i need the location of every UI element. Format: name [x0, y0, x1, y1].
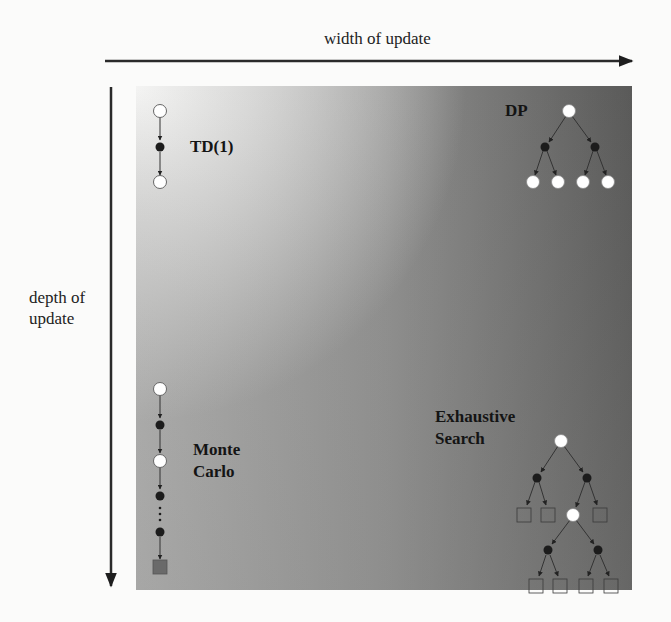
- td1-label: TD(1): [190, 136, 233, 158]
- monte-carlo-label-line2: Carlo: [193, 461, 240, 483]
- monte-carlo-backup-diagram: [153, 383, 167, 575]
- terminal-square: [541, 508, 555, 522]
- td1-backup-diagram: [154, 105, 167, 189]
- state-node: [154, 105, 167, 118]
- terminal-square: [529, 579, 543, 593]
- ellipsis-dot: [159, 519, 162, 522]
- terminal-square: [593, 508, 607, 522]
- state-node: [563, 105, 576, 118]
- exhaustive-search-label: Exhaustive Search: [435, 406, 515, 450]
- action-node: [583, 474, 592, 483]
- action-node: [544, 546, 553, 555]
- exhaustive-search-backup-diagram: [517, 435, 618, 594]
- state-node: [154, 176, 167, 189]
- action-node: [156, 492, 165, 501]
- action-node: [591, 143, 600, 152]
- action-node: [156, 421, 165, 430]
- action-node: [156, 528, 165, 537]
- action-node: [533, 474, 542, 483]
- action-node: [541, 143, 550, 152]
- state-node: [602, 176, 615, 189]
- ellipsis-dot: [159, 507, 162, 510]
- terminal-square: [517, 508, 531, 522]
- action-node: [594, 546, 603, 555]
- terminal-square: [579, 579, 593, 593]
- monte-carlo-label-line1: Monte: [193, 439, 240, 461]
- state-node: [154, 383, 167, 396]
- ellipsis-dot: [159, 513, 162, 516]
- terminal-square: [153, 560, 167, 574]
- state-node: [552, 176, 565, 189]
- action-node: [156, 143, 165, 152]
- terminal-square: [553, 579, 567, 593]
- state-node: [154, 455, 167, 468]
- terminal-square: [604, 579, 618, 593]
- diagram-overlay: [0, 0, 671, 622]
- state-node: [555, 435, 568, 448]
- dp-backup-diagram: [527, 105, 615, 189]
- dp-label: DP: [505, 100, 528, 122]
- exhaustive-search-label-line1: Exhaustive: [435, 406, 515, 428]
- state-node: [567, 509, 580, 522]
- state-node: [577, 176, 590, 189]
- exhaustive-search-label-line2: Search: [435, 428, 515, 450]
- state-node: [527, 176, 540, 189]
- monte-carlo-label: Monte Carlo: [193, 439, 240, 483]
